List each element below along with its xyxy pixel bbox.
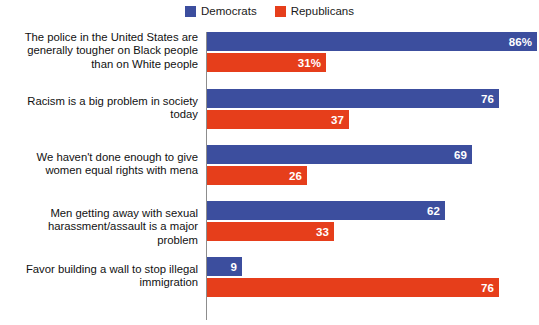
bar-value-label: 76: [481, 282, 499, 294]
legend-entry-democrats: Democrats: [185, 5, 257, 17]
bar-value-label: 26: [289, 170, 307, 182]
category-label: We haven't done enough to give women equ…: [12, 151, 198, 178]
category-label: The police in the United States are gene…: [12, 31, 198, 71]
bar-group: 9 76: [207, 257, 539, 301]
bar-value-label: 9: [231, 261, 243, 273]
bar-value-label: 62: [427, 205, 445, 217]
square-swatch-icon: [185, 6, 196, 17]
legend-label-democrats: Democrats: [201, 5, 257, 17]
bar-value-label: 76: [481, 93, 499, 105]
square-swatch-icon: [275, 6, 286, 17]
chart-row: Favor building a wall to stop illegal im…: [0, 257, 539, 301]
category-label: Favor building a wall to stop illegal im…: [12, 263, 198, 290]
bar-value-label: 86%: [509, 36, 537, 48]
bar-value-label: 33: [316, 226, 334, 238]
bar-democrats: 62: [207, 201, 445, 220]
bar-democrats: 69: [207, 145, 472, 164]
bar-republicans: 33: [207, 222, 334, 241]
bar-group: 86% 31%: [207, 32, 539, 76]
chart-row: Racism is a big problem in society today…: [0, 89, 539, 133]
legend-label-republicans: Republicans: [291, 5, 354, 17]
chart-row: The police in the United States are gene…: [0, 32, 539, 76]
bar-republicans: 37: [207, 110, 349, 129]
bar-group: 69 26: [207, 145, 539, 189]
bar-democrats: 76: [207, 89, 499, 108]
bar-republicans: 26: [207, 166, 307, 185]
bar-value-label: 37: [331, 114, 349, 126]
category-label: Men getting away with sexual harassment/…: [12, 207, 198, 247]
category-label: Racism is a big problem in society today: [12, 95, 198, 122]
chart-row: We haven't done enough to give women equ…: [0, 145, 539, 189]
bar-value-label: 69: [454, 149, 472, 161]
chart-legend: Democrats Republicans: [0, 3, 539, 19]
legend-entry-republicans: Republicans: [275, 5, 354, 17]
grouped-bar-chart: Democrats Republicans The police in the …: [0, 0, 539, 325]
bar-democrats: 9: [207, 257, 242, 276]
bar-value-label: 31%: [298, 57, 326, 69]
chart-row: Men getting away with sexual harassment/…: [0, 201, 539, 245]
bar-republicans: 31%: [207, 53, 326, 72]
bar-democrats: 86%: [207, 32, 537, 51]
bar-republicans: 76: [207, 278, 499, 297]
bar-group: 62 33: [207, 201, 539, 245]
bar-group: 76 37: [207, 89, 539, 133]
plot-area: The police in the United States are gene…: [0, 24, 539, 325]
